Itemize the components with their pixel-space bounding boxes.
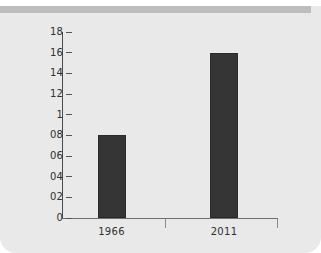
y-tick-label: 1 [56,109,66,121]
y-tick-label: 04 [50,171,66,183]
x-axis-line [62,218,278,219]
y-tick: 1 [0,109,72,121]
y-tick-label: 18 [50,26,66,38]
y-tick: 02 [0,191,72,203]
x-axis-label-1966: 1966 [82,226,142,237]
y-tick-mark [66,94,72,95]
y-tick: 0 [0,212,72,224]
y-tick-label: 12 [50,88,66,100]
y-tick-label: 0 [56,212,66,224]
y-tick-mark [66,73,72,74]
y-tick-mark [66,32,72,33]
y-tick-mark [66,176,72,177]
y-tick-mark [66,218,72,219]
x-axis-separator-tick [165,219,166,228]
y-tick-mark [66,197,72,198]
bar-1966[interactable] [98,135,126,218]
y-tick-mark [66,135,72,136]
y-tick-label: 14 [50,67,66,79]
y-tick-label: 16 [50,47,66,59]
y-tick-label: 02 [50,191,66,203]
y-tick-mark [66,52,72,53]
y-tick-label: 06 [50,150,66,162]
y-tick: 12 [0,88,72,100]
y-tick: 06 [0,150,72,162]
y-tick: 16 [0,47,72,59]
y-tick-mark [66,156,72,157]
x-axis-end-tick [277,219,278,228]
bar-chart: 002040608112141618 19662011 [0,6,321,253]
y-tick: 14 [0,67,72,79]
x-axis-label-2011: 2011 [194,226,254,237]
y-tick: 18 [0,26,72,38]
bar-2011[interactable] [210,53,238,218]
y-tick: 04 [0,171,72,183]
y-tick-mark [66,114,72,115]
y-tick: 08 [0,129,72,141]
y-tick-label: 08 [50,129,66,141]
